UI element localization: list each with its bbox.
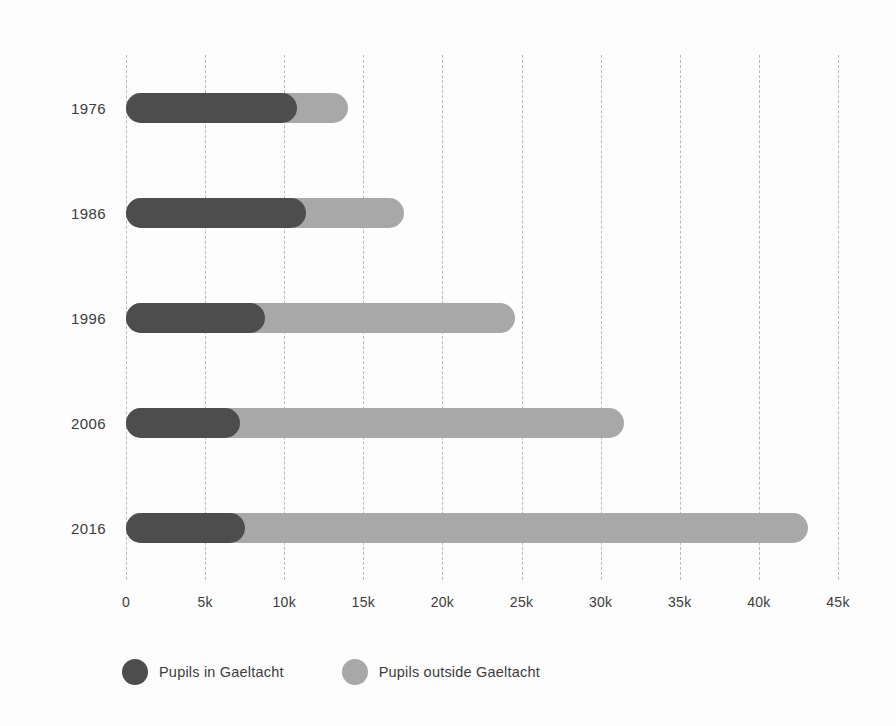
bar-row[interactable] bbox=[126, 198, 838, 228]
bar-row[interactable] bbox=[126, 93, 838, 123]
y-axis-label-2006: 2006 bbox=[26, 416, 106, 431]
x-axis-tick-0: 0 bbox=[122, 594, 130, 610]
bar-segment-in-gaeltacht[interactable] bbox=[126, 198, 306, 228]
x-axis-tick-20k: 20k bbox=[431, 594, 454, 610]
x-axis-tick-45k: 45k bbox=[826, 594, 849, 610]
y-axis-label-1976: 1976 bbox=[26, 101, 106, 116]
x-axis-tick-15k: 15k bbox=[352, 594, 375, 610]
y-axis-label-2016: 2016 bbox=[26, 521, 106, 536]
legend-swatch-circle-icon bbox=[122, 659, 148, 685]
chart-legend: Pupils in GaeltachtPupils outside Gaelta… bbox=[122, 655, 598, 689]
x-axis-tick-10k: 10k bbox=[272, 594, 295, 610]
gridline-45k bbox=[838, 55, 839, 580]
x-axis-tick-25k: 25k bbox=[510, 594, 533, 610]
y-axis-label-1996: 1996 bbox=[26, 311, 106, 326]
bar-row[interactable] bbox=[126, 513, 838, 543]
bar-segment-in-gaeltacht[interactable] bbox=[126, 408, 240, 438]
x-axis-tick-35k: 35k bbox=[668, 594, 691, 610]
bar-row[interactable] bbox=[126, 408, 838, 438]
legend-item[interactable]: Pupils outside Gaeltacht bbox=[342, 659, 540, 685]
stacked-bar-chart: 19761986199620062016 05k10k15k20k25k30k3… bbox=[0, 0, 896, 726]
legend-item[interactable]: Pupils in Gaeltacht bbox=[122, 659, 284, 685]
y-axis-label-1986: 1986 bbox=[26, 206, 106, 221]
bar-segment-in-gaeltacht[interactable] bbox=[126, 93, 297, 123]
legend-swatch-circle-icon bbox=[342, 659, 368, 685]
y-axis: 19761986199620062016 bbox=[26, 55, 106, 580]
x-axis-tick-30k: 30k bbox=[589, 594, 612, 610]
x-axis-tick-5k: 5k bbox=[197, 594, 212, 610]
legend-label: Pupils outside Gaeltacht bbox=[379, 664, 540, 680]
bar-row[interactable] bbox=[126, 303, 838, 333]
x-axis-tick-40k: 40k bbox=[747, 594, 770, 610]
x-axis: 05k10k15k20k25k30k35k40k45k bbox=[126, 594, 838, 618]
legend-label: Pupils in Gaeltacht bbox=[159, 664, 284, 680]
bar-segment-in-gaeltacht[interactable] bbox=[126, 513, 245, 543]
bar-segment-in-gaeltacht[interactable] bbox=[126, 303, 265, 333]
plot-area bbox=[126, 55, 838, 580]
